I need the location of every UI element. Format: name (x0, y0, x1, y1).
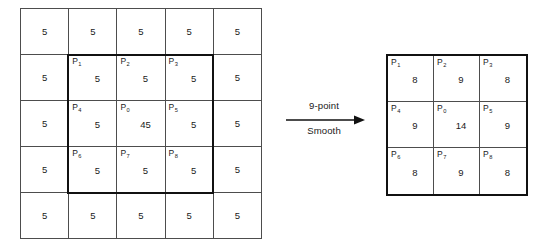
cell-value: 45 (117, 119, 164, 130)
grid-cell: P75 (117, 147, 165, 193)
grid-cell: P18 (388, 56, 434, 102)
grid-cell: 5 (214, 147, 262, 193)
cell-value: 5 (166, 73, 213, 84)
pixel-label: P5 (483, 103, 492, 114)
cell-value: 9 (480, 120, 526, 131)
output-image-grid: P18P29P38P49P014P59P68P79P88 (386, 54, 528, 196)
grid-cell: 5 (117, 193, 165, 239)
grid-cell: 5 (21, 55, 69, 101)
grid-cell: P45 (69, 101, 117, 147)
pixel-label-subscript: 3 (175, 61, 178, 67)
cell-value: 5 (21, 55, 68, 100)
transform-arrow-group: 9-point Smooth (286, 100, 366, 146)
cell-value: 5 (214, 9, 261, 54)
cell-value: 5 (117, 165, 164, 176)
pixel-label-subscript: 2 (443, 62, 446, 68)
cell-value: 5 (21, 193, 68, 238)
cell-value: 5 (21, 101, 68, 146)
pixel-label-subscript: 6 (78, 153, 81, 159)
pixel-label: P8 (483, 149, 492, 160)
pixel-label: P0 (120, 102, 129, 113)
cell-value: 8 (388, 166, 433, 177)
cell-value: 9 (388, 120, 433, 131)
pixel-label: P5 (169, 102, 178, 113)
pixel-label-subscript: 8 (175, 153, 178, 159)
pixel-label-subscript: 5 (489, 108, 492, 114)
cell-value: 5 (21, 9, 68, 54)
grid-cell: P29 (434, 56, 480, 102)
pixel-label: P7 (437, 149, 446, 160)
cell-value: 5 (166, 193, 213, 238)
pixel-label: P2 (437, 57, 446, 68)
cell-value: 5 (214, 101, 261, 146)
grid-cell: 5 (69, 193, 117, 239)
cell-value: 5 (69, 119, 116, 130)
pixel-label-subscript: 6 (397, 154, 400, 160)
cell-value: 5 (166, 165, 213, 176)
pixel-label: P1 (391, 57, 400, 68)
grid-cell: P35 (166, 55, 214, 101)
pixel-label-subscript: 4 (397, 108, 400, 114)
pixel-label: P6 (391, 149, 400, 160)
grid-cell: 5 (21, 9, 69, 55)
pixel-label: P7 (120, 148, 129, 159)
pixel-label-subscript: 4 (78, 107, 81, 113)
grid-cell: P85 (166, 147, 214, 193)
grid-cell: P49 (388, 102, 434, 148)
grid-cell: 5 (21, 193, 69, 239)
pixel-label-subscript: 2 (127, 61, 130, 67)
grid-cell: 5 (214, 55, 262, 101)
pixel-label-subscript: 1 (78, 61, 81, 67)
grid-cell: 5 (214, 9, 262, 55)
grid-cell: P55 (166, 101, 214, 147)
arrow-label-bottom: Smooth (286, 125, 362, 136)
cell-value: 5 (69, 9, 116, 54)
pixel-label: P4 (72, 102, 81, 113)
cell-value: 5 (69, 193, 116, 238)
cell-value: 5 (166, 119, 213, 130)
pixel-label-subscript: 8 (489, 154, 492, 160)
cell-value: 5 (117, 9, 164, 54)
grid-cell: P59 (480, 102, 526, 148)
arrow-label-top: 9-point (286, 100, 362, 111)
cell-value: 5 (214, 193, 261, 238)
input-image-grid: 555555P15P25P3555P45P045P5555P65P75P8555… (20, 8, 262, 239)
grid-cell: 5 (21, 147, 69, 193)
cell-value: 5 (117, 193, 164, 238)
pixel-label: P2 (120, 56, 129, 67)
cell-value: 8 (388, 74, 433, 85)
grid-cell: 5 (166, 9, 214, 55)
grid-cell: P65 (69, 147, 117, 193)
grid-cell: 5 (166, 193, 214, 239)
pixel-label-subscript: 1 (397, 62, 400, 68)
cell-value: 8 (480, 74, 526, 85)
cell-value: 5 (166, 9, 213, 54)
pixel-label-subscript: 0 (443, 108, 446, 114)
grid-cell: P25 (117, 55, 165, 101)
grid-cell: P014 (434, 102, 480, 148)
cell-value: 5 (214, 55, 261, 100)
pixel-label: P4 (391, 103, 400, 114)
cell-value: 14 (434, 120, 479, 131)
cell-value: 8 (480, 166, 526, 177)
grid-cell: 5 (214, 101, 262, 147)
pixel-label-subscript: 5 (175, 107, 178, 113)
pixel-label-subscript: 7 (443, 154, 446, 160)
cell-value: 5 (21, 147, 68, 192)
grid-cell: P045 (117, 101, 165, 147)
grid-cell: 5 (69, 9, 117, 55)
grid-cell: 5 (21, 101, 69, 147)
cell-value: 5 (117, 73, 164, 84)
cell-value: 5 (214, 147, 261, 192)
cell-value: 9 (434, 166, 479, 177)
grid-cell: 5 (117, 9, 165, 55)
pixel-label: P3 (483, 57, 492, 68)
pixel-label-subscript: 7 (127, 153, 130, 159)
grid-cell: P68 (388, 148, 434, 194)
pixel-label: P3 (169, 56, 178, 67)
pixel-label: P8 (169, 148, 178, 159)
grid-cell: P79 (434, 148, 480, 194)
pixel-label: P0 (437, 103, 446, 114)
pixel-label: P1 (72, 56, 81, 67)
pixel-label-subscript: 0 (127, 107, 130, 113)
